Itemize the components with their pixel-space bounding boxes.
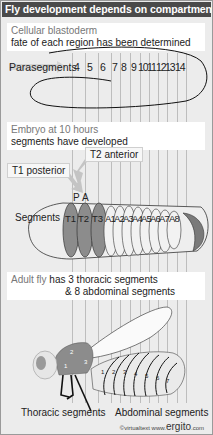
segment-label: A7 <box>159 213 169 224</box>
segments-label: Segments <box>15 212 60 223</box>
credit-prefix: ©virtualtext www. <box>120 425 166 431</box>
parasegment-number: 9 <box>131 61 137 73</box>
parasegment-number: 7 <box>112 61 118 73</box>
anterior-label: A <box>82 192 89 203</box>
fly-wing <box>83 307 172 359</box>
parasegment-number: 5 <box>87 61 93 73</box>
abdominal-segments-label: Abdominal segments <box>115 407 208 418</box>
diagram-frame: Fly development depends on compartments … <box>0 0 213 435</box>
abdomen-number: 6 <box>156 375 159 381</box>
embryo-caption: Embryo at 10 hours segments have develop… <box>7 122 205 150</box>
thoracic-segments-label: Thoracic segments <box>21 407 105 418</box>
fly-legs <box>61 375 91 411</box>
segment-label: T3 <box>92 213 103 224</box>
adult-subheading: & 8 abdominal segments <box>11 286 201 298</box>
segment-label: T1 <box>65 213 76 224</box>
abdomen-number: 3 <box>123 369 126 375</box>
adult-heading-grey: Adult fly <box>11 274 47 285</box>
embryo-heading: Embryo at 10 hours <box>11 124 201 136</box>
credit-line: ©virtualtext www.ergito.com <box>120 421 204 432</box>
fly-abdomen <box>91 352 185 396</box>
thorax-number: 2 <box>70 349 73 355</box>
blastoderm-embryo-outline <box>30 47 207 108</box>
credit-suffix: .com <box>191 425 204 431</box>
parasegment-number: 14 <box>175 61 185 73</box>
adult-heading: has 3 thoracic segments <box>49 274 157 285</box>
abdomen-number: 4 <box>134 371 137 377</box>
adult-caption: Adult fly has 3 thoracic segments & 8 ab… <box>7 272 205 300</box>
t2-anterior-tag: T2 anterior <box>85 147 143 162</box>
parasegment-number: 4 <box>74 61 80 73</box>
abdomen-number: 7 <box>166 378 169 384</box>
thorax-number: 3 <box>84 359 87 365</box>
parasegment-number: 8 <box>121 61 127 73</box>
abdomen-number: 2 <box>112 369 115 375</box>
parasegment-number: 6 <box>100 61 106 73</box>
thoracic-segments-embryo <box>63 203 107 257</box>
parasegments-label: Parasegments <box>9 61 77 73</box>
parasegment-number: 11 <box>147 61 156 73</box>
segment-label: A8 <box>169 213 179 224</box>
abdomen-number: 5 <box>145 373 148 379</box>
abdomen-number: 1 <box>101 369 104 375</box>
credit-brand: ergito <box>166 421 191 432</box>
posterior-label: P <box>73 192 80 203</box>
segment-label: T2 <box>78 213 89 224</box>
fly-eye <box>36 356 46 370</box>
t1-posterior-tag: T1 posterior <box>7 163 70 178</box>
adult-fly-drawing <box>33 307 185 411</box>
thorax-number: 1 <box>64 363 67 369</box>
parasegment-number: 13 <box>165 61 175 73</box>
